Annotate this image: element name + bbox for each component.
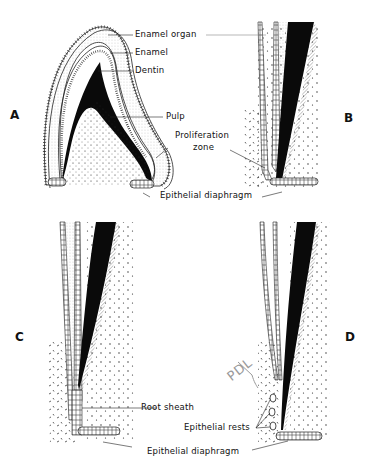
label-proliferation-zone-2: zone	[193, 142, 214, 152]
panel-label-d: D	[345, 330, 355, 344]
label-root-sheath: Root sheath	[141, 402, 194, 412]
panel-label-a: A	[10, 108, 19, 122]
panel-label-b: B	[344, 111, 353, 125]
label-proliferation-zone-1: Proliferation	[175, 130, 229, 140]
label-epithelial-diaphragm-top: Epithelial diaphragm	[160, 190, 252, 200]
panel-b-illustration	[244, 22, 320, 190]
label-dentin: Dentin	[135, 65, 164, 75]
panel-d-illustration	[238, 222, 330, 445]
label-epithelial-diaphragm-bottom: Epithelial diaphragm	[147, 446, 239, 456]
label-epithelial-rests: Epithelial rests	[184, 422, 250, 432]
label-enamel-organ: Enamel organ	[135, 29, 196, 39]
label-enamel: Enamel	[135, 47, 168, 57]
panel-label-c: C	[15, 330, 24, 344]
label-pulp: Pulp	[166, 111, 185, 121]
panel-c-illustration	[48, 222, 135, 445]
